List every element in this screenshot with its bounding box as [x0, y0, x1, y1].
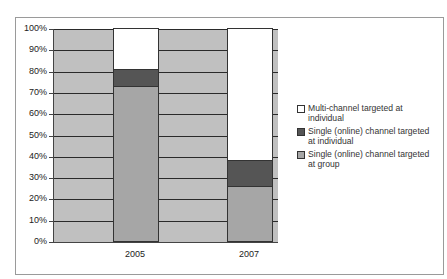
legend-item: Multi-channel targeted at individual [297, 103, 437, 123]
bar-segment [228, 186, 272, 241]
bar-segment [114, 69, 158, 86]
chart-legend: Multi-channel targeted at individualSing… [297, 103, 437, 172]
bar-segment [228, 29, 272, 160]
y-tick-label: 0% [7, 236, 47, 246]
bar-2005 [113, 28, 159, 242]
y-tick-label: 40% [7, 151, 47, 161]
legend-label: Single (online) channel targeted at grou… [308, 149, 437, 169]
legend-label: Single (online) channel targeted at indi… [308, 126, 437, 146]
bar-segment [228, 160, 272, 185]
y-axis-labels: 0%10%20%30%40%50%60%70%80%90%100% [0, 29, 47, 243]
x-tick-label: 2007 [219, 249, 279, 259]
legend-swatch-icon [297, 105, 305, 113]
legend-item: Single (online) channel targeted at indi… [297, 126, 437, 146]
legend-swatch-icon [297, 128, 305, 136]
y-tick-label: 30% [7, 172, 47, 182]
y-tick-label: 100% [7, 23, 47, 33]
legend-item: Single (online) channel targeted at grou… [297, 149, 437, 169]
bar-segment [114, 86, 158, 241]
y-tick-label: 10% [7, 215, 47, 225]
bar-segment [114, 29, 158, 69]
y-tick-label: 70% [7, 87, 47, 97]
y-tick-label: 80% [7, 66, 47, 76]
x-tick-label: 2005 [105, 249, 165, 259]
plot-area [53, 29, 278, 243]
y-tick-label: 60% [7, 108, 47, 118]
legend-swatch-icon [297, 151, 305, 159]
y-tick-label: 90% [7, 44, 47, 54]
bar-2007 [227, 28, 273, 242]
y-tick-label: 20% [7, 193, 47, 203]
y-tick-label: 50% [7, 130, 47, 140]
legend-label: Multi-channel targeted at individual [308, 103, 437, 123]
